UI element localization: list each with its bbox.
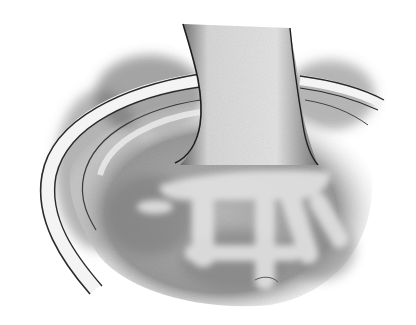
- hand-in-basin-illustration: [0, 0, 416, 325]
